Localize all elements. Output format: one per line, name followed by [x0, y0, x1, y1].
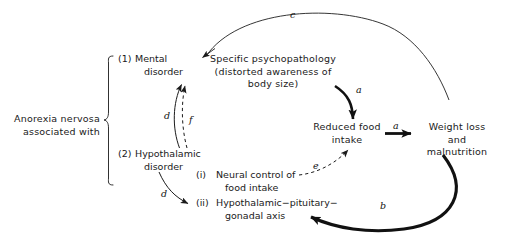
node-neural-control: (i)Neural control offood intake — [196, 169, 295, 194]
node-reduced-food-intake: Reduced food intake — [307, 121, 387, 146]
node-specific-psychopathology: Specific psychopathology (distorted awar… — [203, 53, 343, 91]
group-brace — [104, 56, 113, 185]
node-weight-loss-malnutrition: Weight loss and malnutrition — [414, 121, 500, 159]
node-mental-disorder: (1)Mentaldisorder — [118, 53, 183, 78]
node-weight-loss-line-1: Weight loss — [414, 121, 500, 134]
edge-label-b: b — [380, 200, 386, 211]
node-mental-disorder-line-1: Mental — [135, 53, 167, 64]
node-mental-disorder-line-2: disorder — [135, 66, 183, 79]
node-hypothalamic-disorder-line-2: disorder — [135, 161, 183, 174]
node-reduced-food-intake-line-1: Reduced food — [307, 121, 387, 134]
edge-label-a-psychopathology: a — [356, 84, 362, 95]
node-weight-loss-line-3: malnutrition — [414, 146, 500, 159]
edge-f-path — [182, 86, 187, 148]
edge-a-psych-intake-path — [335, 86, 353, 119]
node-hpg-axis-marker: (ii) — [196, 197, 216, 210]
node-hpg-axis: (ii)Hypothalamic−pituitary−gonadal axis — [196, 197, 338, 222]
group-label: Anorexia nervosa associated with — [8, 113, 100, 138]
node-weight-loss-line-2: and — [414, 134, 500, 147]
group-label-line-2: associated with — [8, 126, 100, 139]
node-hpg-axis-line-2: gonadal axis — [216, 210, 285, 223]
edge-label-c: c — [290, 9, 295, 20]
node-neural-control-line-2: food intake — [216, 182, 278, 195]
edge-label-a-intake: a — [393, 120, 399, 131]
group-label-line-1: Anorexia nervosa — [8, 113, 100, 126]
figure-canvas: Anorexia nervosa associated with (1)Ment… — [0, 0, 506, 250]
edge-e-path — [299, 150, 348, 175]
edge-label-d-upper: d — [164, 110, 170, 121]
node-neural-control-marker: (i) — [196, 169, 216, 182]
node-hypothalamic-disorder-line-1: Hypothalamic — [135, 148, 201, 159]
node-mental-disorder-marker: (1) — [118, 53, 135, 66]
edge-label-d-lower: d — [161, 188, 167, 199]
node-hpg-axis-line-1: Hypothalamic−pituitary− — [216, 197, 338, 208]
node-psychopathology-line-3: body size) — [203, 78, 343, 91]
node-hypothalamic-disorder-marker: (2) — [118, 148, 135, 161]
edge-label-f: f — [189, 114, 193, 125]
node-psychopathology-line-1: Specific psychopathology — [203, 53, 343, 66]
edge-label-e: e — [313, 160, 319, 171]
edge-d-up-path — [174, 85, 181, 149]
node-psychopathology-line-2: (distorted awareness of — [203, 66, 343, 79]
node-reduced-food-intake-line-2: intake — [307, 134, 387, 147]
node-hypothalamic-disorder: (2)Hypothalamicdisorder — [118, 148, 201, 173]
node-neural-control-line-1: Neural control of — [216, 169, 295, 180]
